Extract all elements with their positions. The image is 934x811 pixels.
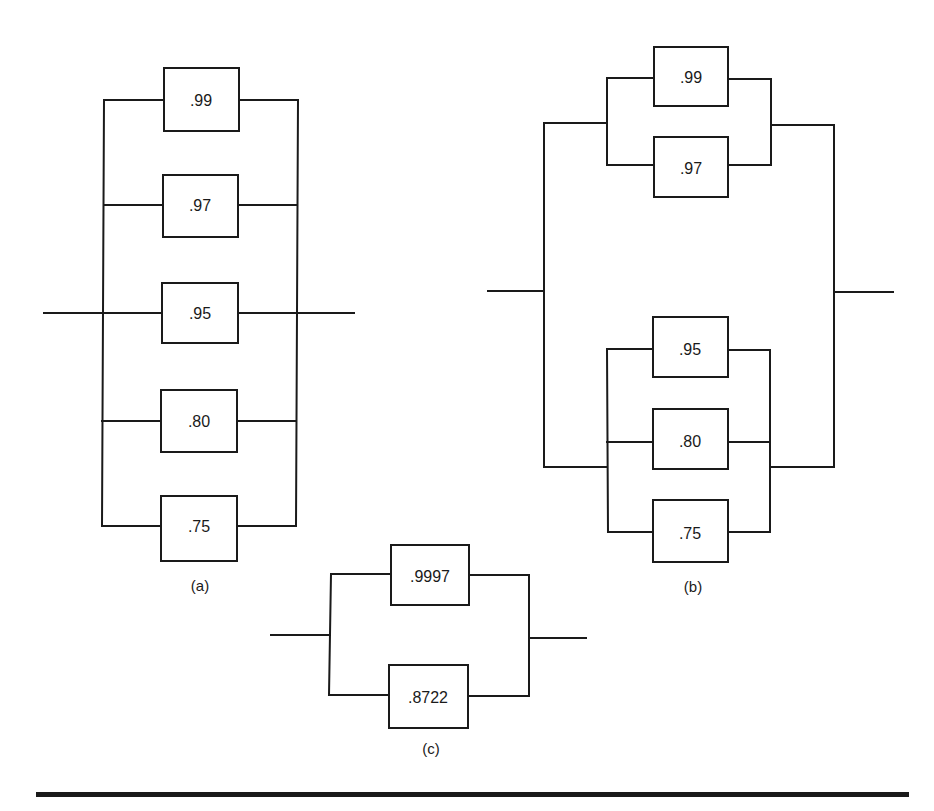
diagram-c: .9997 .8722 (c) — [271, 545, 586, 757]
diagram-b-upper-component: .99 — [654, 47, 728, 106]
diagram-c-left-rail — [329, 574, 391, 695]
diagram-c-right-rail — [468, 575, 529, 696]
diagram-c-component: .9997 — [391, 545, 469, 605]
component-reliability: .95 — [189, 305, 211, 322]
diagram-c-component: .8722 — [389, 665, 468, 728]
diagram-c-caption: (c) — [422, 740, 440, 757]
component-reliability: .75 — [188, 518, 210, 535]
bottom-rule-divider — [36, 792, 909, 797]
component-reliability: .97 — [189, 197, 211, 214]
diagram-b-upper-component: .97 — [654, 137, 728, 197]
diagram-b-outer-right-rail — [770, 125, 834, 467]
diagram-b: .99 .97 .95 .80 .75 (b) — [488, 47, 893, 595]
diagram-b-upper-right-rail — [728, 79, 771, 165]
diagram-a-component: .80 — [161, 390, 237, 452]
diagram-a: .99 .97 .95 .80 .75 (a) — [44, 68, 354, 594]
component-reliability: .8722 — [408, 689, 448, 706]
diagram-b-upper-left-rail — [607, 78, 654, 165]
component-reliability: .9997 — [410, 568, 450, 585]
diagram-b-lower-left-rail — [607, 349, 653, 532]
diagram-b-caption: (b) — [684, 578, 702, 595]
diagram-b-lower-component: .80 — [653, 409, 728, 469]
diagram-a-component: .97 — [163, 175, 238, 237]
component-reliability: .80 — [188, 413, 210, 430]
component-reliability: .99 — [190, 92, 212, 109]
diagram-b-lower-component: .75 — [653, 500, 728, 562]
component-reliability: .99 — [680, 69, 702, 86]
diagram-a-component: .95 — [162, 283, 238, 343]
component-reliability: .97 — [680, 160, 702, 177]
diagram-b-lower-component: .95 — [653, 317, 728, 377]
diagram-b-outer-left-rail — [544, 123, 607, 467]
component-reliability: .75 — [679, 525, 701, 542]
component-reliability: .80 — [679, 433, 701, 450]
diagram-a-component: .99 — [164, 68, 239, 131]
reliability-block-diagrams: .99 .97 .95 .80 .75 (a) — [0, 0, 934, 811]
diagram-a-caption: (a) — [191, 577, 209, 594]
component-reliability: .95 — [679, 341, 701, 358]
diagram-a-component: .75 — [161, 496, 237, 561]
